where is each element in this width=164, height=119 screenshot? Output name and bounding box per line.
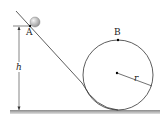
incline-track [16,11,118,110]
label-a: A [25,27,33,37]
circular-loop [83,40,153,110]
label-r: r [134,73,139,83]
label-b: B [114,27,121,37]
point-b-marker [117,39,119,41]
height-arrow-top [18,27,21,31]
label-h: h [16,62,22,72]
height-arrow-bottom [18,107,21,111]
ground [10,110,160,114]
ball [30,17,40,27]
loop-diagram: B r A h [0,0,164,119]
